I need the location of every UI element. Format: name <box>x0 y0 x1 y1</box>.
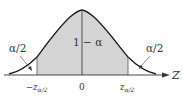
axis-arrow-icon <box>162 73 170 78</box>
right-tail-label: α/2 <box>146 42 163 54</box>
left-tail-label: α/2 <box>9 42 26 54</box>
tick-label-center: 0 <box>79 82 85 92</box>
center-area-label: 1 − α <box>73 36 102 48</box>
left-tail-arrow-icon <box>28 66 32 71</box>
right-tail-pointer <box>141 56 150 66</box>
tick-label-left: −zα/2 <box>26 82 48 93</box>
axis-label-z: Z <box>171 69 180 82</box>
normal-distribution-diagram: α/2 α/2 1 − α Z −zα/2 0 zα/2 <box>0 0 183 99</box>
tick-label-right: zα/2 <box>119 82 135 93</box>
